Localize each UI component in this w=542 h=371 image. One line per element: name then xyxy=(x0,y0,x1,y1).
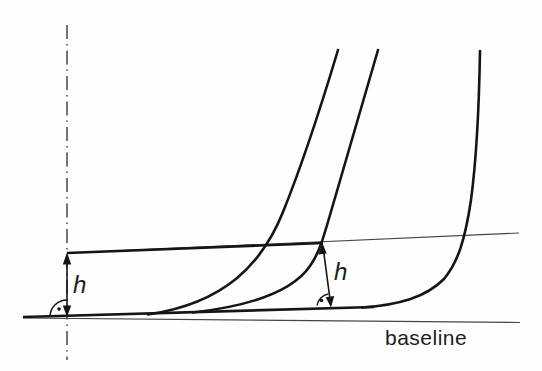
baseline-label: baseline xyxy=(385,326,467,349)
baseline-line xyxy=(23,318,520,323)
diagram-canvas: h h baseline xyxy=(0,0,542,371)
height-label-right: h xyxy=(334,258,347,285)
profile-diagram: h h baseline xyxy=(0,0,542,371)
arrowhead-down-right xyxy=(326,296,335,307)
arrowhead-up-left xyxy=(63,253,71,265)
right-angle-dot-right xyxy=(320,299,324,303)
sheer-line-thick xyxy=(67,243,323,253)
right-angle-dot-left xyxy=(57,307,61,311)
profile-curve-2 xyxy=(193,50,378,313)
height-label-left: h xyxy=(73,271,86,298)
height-arrow-left xyxy=(63,253,71,318)
profile-curve-3 xyxy=(362,51,480,308)
right-angle-arc-right xyxy=(317,294,328,306)
profile-curve-1 xyxy=(148,50,338,315)
